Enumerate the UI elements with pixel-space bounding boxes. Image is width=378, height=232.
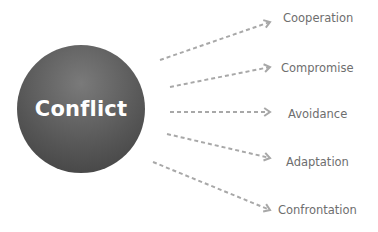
- outcome-label-adaptation: Adaptation: [286, 155, 349, 169]
- outcome-label-avoidance: Avoidance: [288, 107, 347, 121]
- dashed-arrow-icon: [153, 162, 270, 211]
- outcome-label-cooperation: Cooperation: [283, 11, 353, 25]
- dashed-arrow-icon: [160, 20, 270, 60]
- dashed-arrow-icon: [170, 64, 270, 87]
- dashed-arrow-icon: [170, 108, 270, 116]
- outcome-label-confrontation: Confrontation: [278, 203, 357, 217]
- outcome-label-compromise: Compromise: [281, 61, 354, 75]
- dashed-arrow-icon: [167, 134, 270, 161]
